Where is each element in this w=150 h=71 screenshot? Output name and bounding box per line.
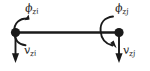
force-arrowhead-j <box>115 53 122 63</box>
figure-drawing <box>0 0 150 71</box>
beam-dof-figure: ϕzi ϕzj vzi vzj <box>0 0 150 71</box>
moment-arrowhead-i <box>25 14 30 20</box>
force-arrow-j <box>115 35 122 63</box>
force-arrow-i <box>12 35 19 63</box>
force-arrowhead-i <box>12 53 19 63</box>
